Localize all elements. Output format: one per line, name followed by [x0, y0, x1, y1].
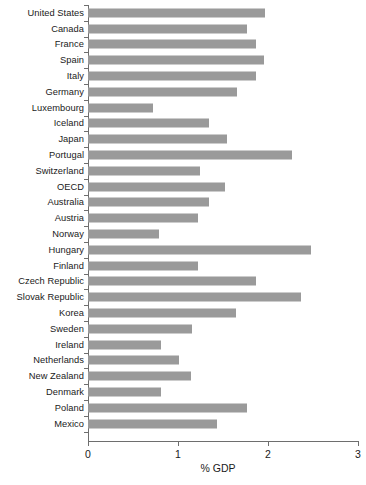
- bar: [88, 356, 179, 365]
- category-label: Sweden: [50, 324, 84, 334]
- category-label: Portugal: [49, 150, 84, 160]
- category-label: Mexico: [54, 419, 84, 429]
- bar-row: Czech Republic: [0, 274, 366, 290]
- x-axis-tick-label: 3: [355, 448, 361, 460]
- bar: [88, 182, 225, 191]
- category-label: OECD: [57, 182, 84, 192]
- y-axis-tick: [84, 147, 88, 148]
- bar: [88, 40, 256, 49]
- y-axis-tick: [84, 368, 88, 369]
- category-label: Hungary: [49, 245, 85, 255]
- bar-chart: United StatesCanadaFranceSpainItalyGerma…: [0, 0, 366, 485]
- y-axis-tick: [84, 242, 88, 243]
- bar: [88, 403, 247, 412]
- y-axis-tick: [84, 116, 88, 117]
- bar: [88, 419, 217, 428]
- category-label: Czech Republic: [18, 276, 84, 286]
- bar: [88, 340, 161, 349]
- y-axis-tick: [84, 400, 88, 401]
- bar: [88, 135, 227, 144]
- bar: [88, 24, 247, 33]
- y-axis-tick: [84, 131, 88, 132]
- bar-row: Japan: [0, 131, 366, 147]
- bar: [88, 245, 311, 254]
- category-label: Norway: [52, 229, 84, 239]
- bar-row: Spain: [0, 52, 366, 68]
- bar: [88, 277, 256, 286]
- category-label: Ireland: [55, 340, 84, 350]
- category-label: Denmark: [46, 387, 84, 397]
- category-label: Finland: [53, 261, 84, 271]
- category-label: France: [55, 39, 84, 49]
- bar-row: Germany: [0, 84, 366, 100]
- bar: [88, 56, 264, 65]
- category-label: Korea: [59, 308, 84, 318]
- bar-row: France: [0, 37, 366, 53]
- bar-row: Switzerland: [0, 163, 366, 179]
- y-axis-tick: [84, 226, 88, 227]
- bar-row: OECD: [0, 179, 366, 195]
- x-axis-tick-label: 0: [85, 448, 91, 460]
- y-axis-tick: [84, 321, 88, 322]
- bar-row: Australia: [0, 195, 366, 211]
- y-axis-tick: [84, 258, 88, 259]
- y-axis-tick: [84, 52, 88, 53]
- y-axis-tick: [84, 195, 88, 196]
- category-label: Italy: [67, 71, 84, 81]
- bar-row: Slovak Republic: [0, 289, 366, 305]
- bar-row: New Zealand: [0, 368, 366, 384]
- bar: [88, 261, 198, 270]
- bar-row: Luxembourg: [0, 100, 366, 116]
- bar-row: Netherlands: [0, 353, 366, 369]
- y-axis-tick: [84, 84, 88, 85]
- bar-row: Italy: [0, 68, 366, 84]
- category-label: Luxembourg: [32, 103, 84, 113]
- y-axis-tick: [84, 353, 88, 354]
- bar: [88, 103, 153, 112]
- bar: [88, 198, 209, 207]
- bar-row: Norway: [0, 226, 366, 242]
- y-axis-tick: [84, 384, 88, 385]
- bar-row: Korea: [0, 305, 366, 321]
- y-axis-tick: [84, 337, 88, 338]
- bar-row: Portugal: [0, 147, 366, 163]
- y-axis-tick: [84, 179, 88, 180]
- bar: [88, 309, 236, 318]
- y-axis-tick: [84, 37, 88, 38]
- category-label: Germany: [45, 87, 84, 97]
- y-axis-tick: [84, 163, 88, 164]
- category-label: Slovak Republic: [17, 292, 84, 302]
- category-label: New Zealand: [29, 371, 84, 381]
- category-label: Spain: [60, 55, 84, 65]
- bar: [88, 372, 191, 381]
- bar: [88, 72, 256, 81]
- x-axis-tick: [358, 441, 359, 446]
- category-label: Australia: [47, 197, 84, 207]
- category-label: Switzerland: [35, 166, 84, 176]
- bar: [88, 87, 237, 96]
- y-axis-tick: [84, 68, 88, 69]
- category-label: Poland: [55, 403, 84, 413]
- y-axis-tick: [84, 432, 88, 433]
- bar-row: Ireland: [0, 337, 366, 353]
- bar-row: Canada: [0, 21, 366, 37]
- x-axis-tick: [268, 441, 269, 446]
- x-axis-line: [88, 441, 358, 442]
- category-label: Austria: [55, 213, 84, 223]
- bar: [88, 8, 265, 17]
- bar: [88, 324, 192, 333]
- bar: [88, 388, 161, 397]
- bar-row: Austria: [0, 210, 366, 226]
- x-axis-tick: [88, 441, 89, 446]
- bar-row: Sweden: [0, 321, 366, 337]
- bar-row: Mexico: [0, 416, 366, 432]
- bar: [88, 119, 209, 128]
- y-axis-tick: [84, 274, 88, 275]
- y-axis-tick: [84, 21, 88, 22]
- plot-area: United StatesCanadaFranceSpainItalyGerma…: [0, 0, 366, 441]
- bar-row: United States: [0, 5, 366, 21]
- category-label: Netherlands: [33, 355, 84, 365]
- y-axis-tick: [84, 416, 88, 417]
- x-axis-title: % GDP: [0, 462, 366, 474]
- category-label: Iceland: [54, 118, 84, 128]
